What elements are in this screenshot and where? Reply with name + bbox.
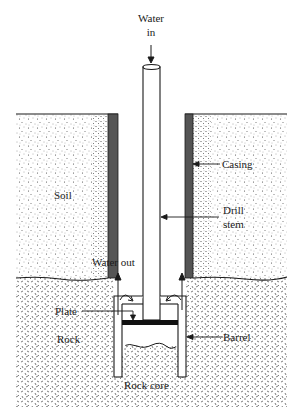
- plate: [122, 320, 178, 325]
- drill-stem-label: Drill: [223, 204, 244, 216]
- soil-right: [185, 114, 287, 278]
- drill-stem-label-line2: stem: [223, 218, 244, 230]
- water-in-label: Water: [138, 12, 164, 24]
- soil-label: Soil: [54, 189, 72, 201]
- casing-left: [108, 114, 118, 278]
- rock-core: [122, 343, 178, 377]
- water-in-arrow: [148, 45, 154, 63]
- rock-core-label: Rock core: [124, 379, 169, 391]
- water-out-label: Water out: [92, 256, 135, 268]
- drill-stem: [143, 65, 160, 321]
- barrel-label: Barrel: [223, 331, 250, 343]
- casing-right: [185, 114, 193, 278]
- plate-label: Plate: [55, 305, 77, 317]
- casing-label: Casing: [222, 158, 253, 170]
- rock-label: Rock: [57, 333, 81, 345]
- water-in-label-line2: in: [147, 26, 156, 38]
- drilling-diagram: Water in Soil Casing Drill stem Water ou…: [0, 0, 299, 412]
